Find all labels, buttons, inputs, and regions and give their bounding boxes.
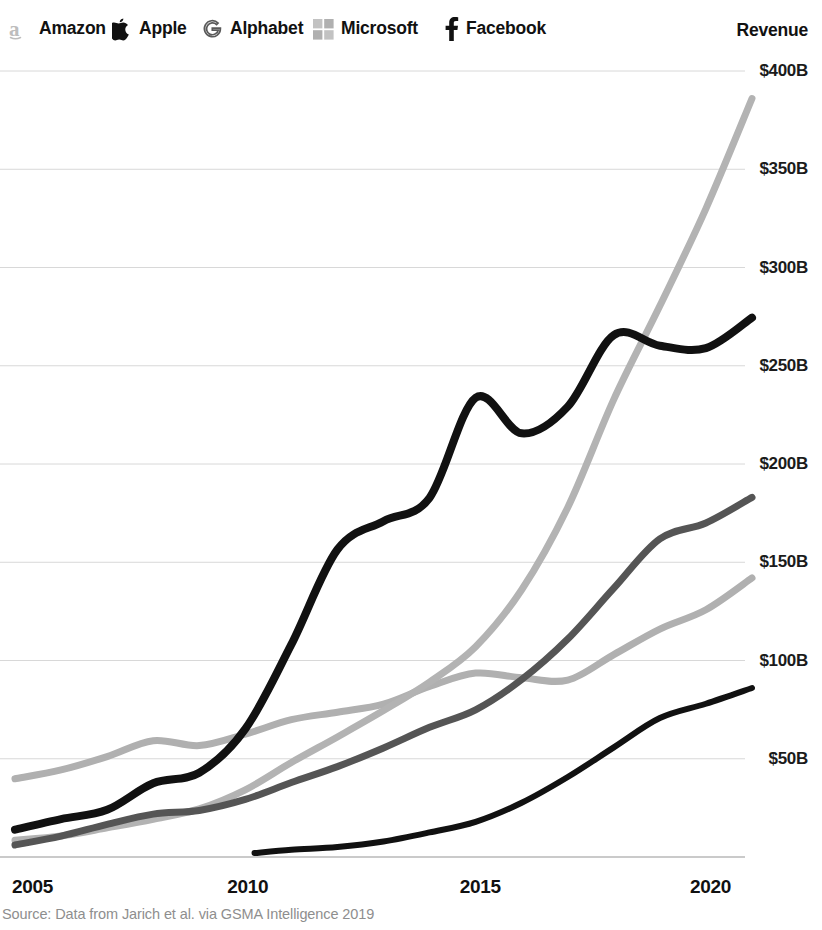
apple-logo-icon [112, 18, 132, 41]
legend-item-apple[interactable]: Apple [112, 14, 187, 44]
chart-legend: a Amazon Apple Alphabet [0, 0, 822, 58]
y-axis-tick-label: $150B [759, 552, 808, 572]
y-axis-tick-label: $300B [759, 258, 808, 278]
plot-area: $50B$100B$150B$200B$250B$300B$350B$400B [0, 58, 822, 870]
revenue-line-chart: a Amazon Apple Alphabet [0, 0, 822, 930]
y-axis-tick-label: $250B [759, 356, 808, 376]
y-axis-tick-label: $200B [759, 454, 808, 474]
legend-label-alphabet: Alphabet [230, 20, 303, 38]
y-axis-tick-label: $350B [759, 159, 808, 179]
legend-label-apple: Apple [139, 20, 187, 38]
alphabet-g-logo-icon [201, 18, 223, 40]
x-axis-tick-label: 2005 [12, 876, 53, 898]
legend-label-facebook: Facebook [466, 20, 546, 38]
chart-source-note: Source: Data from Jarich et al. via GSMA… [2, 906, 374, 922]
series-line-alphabet [15, 497, 752, 845]
facebook-f-logo-icon [443, 17, 459, 41]
legend-item-amazon[interactable]: a Amazon [8, 14, 106, 44]
microsoft-logo-icon [313, 19, 334, 40]
y-axis-tick-label: $50B [769, 749, 808, 769]
chart-canvas [0, 58, 822, 870]
legend-label-amazon: Amazon [39, 20, 106, 38]
revenue-axis-title: Revenue [736, 20, 808, 41]
legend-item-alphabet[interactable]: Alphabet [201, 14, 303, 44]
x-axis-tick-label: 2015 [460, 876, 501, 898]
legend-item-facebook[interactable]: Facebook [443, 14, 546, 44]
x-axis-tick-label: 2020 [690, 876, 731, 898]
y-axis-tick-label: $100B [759, 651, 808, 671]
x-axis-tick-label: 2010 [227, 876, 268, 898]
legend-label-microsoft: Microsoft [341, 20, 418, 38]
y-axis-tick-label: $400B [759, 61, 808, 81]
legend-item-microsoft[interactable]: Microsoft [313, 14, 418, 44]
amazon-logo-icon: a [8, 17, 32, 41]
